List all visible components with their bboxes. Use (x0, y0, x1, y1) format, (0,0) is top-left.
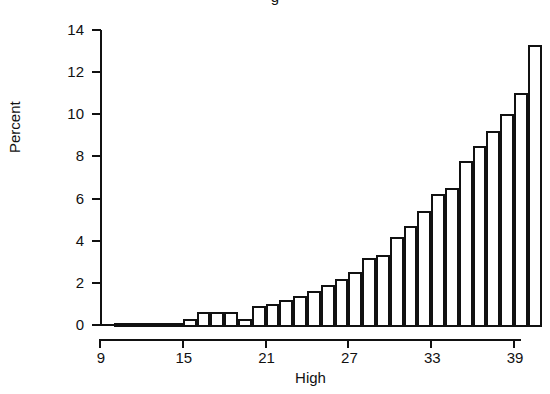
histogram-bar (155, 323, 169, 327)
histogram-bar (141, 323, 155, 327)
histogram-bar (376, 255, 390, 327)
y-axis-title: Percent (7, 127, 23, 153)
histogram-bar (252, 306, 266, 327)
histogram-bar (417, 211, 431, 327)
histogram-bar (528, 45, 542, 327)
histogram-bar (128, 323, 142, 327)
histogram-bar (279, 300, 293, 327)
histogram-bar (266, 304, 280, 327)
histogram-bar (459, 161, 473, 327)
histogram-bar (404, 226, 418, 327)
histogram-bar (362, 258, 376, 327)
histogram-bar (238, 319, 252, 327)
histogram-bar (348, 272, 362, 327)
x-axis-title: High (100, 370, 521, 386)
histogram-bar (514, 93, 528, 327)
histogram-bar (431, 194, 445, 327)
histogram-bar (307, 291, 321, 327)
histogram-bar (169, 323, 183, 327)
histogram-bar (224, 312, 238, 327)
histogram-bar (500, 114, 514, 327)
histogram-bar (197, 312, 211, 327)
histogram-bar (293, 296, 307, 328)
histogram-bar (335, 279, 349, 327)
histogram-bar (473, 146, 487, 327)
histogram-chart: g 02468101214 91521273339 Percent High (0, 0, 550, 394)
bars-container (0, 0, 550, 394)
histogram-bar (445, 188, 459, 327)
histogram-bar (114, 323, 128, 327)
histogram-bar (210, 312, 224, 327)
histogram-bar (486, 131, 500, 327)
histogram-bar (321, 285, 335, 327)
histogram-bar (183, 319, 197, 327)
histogram-bar (390, 237, 404, 328)
